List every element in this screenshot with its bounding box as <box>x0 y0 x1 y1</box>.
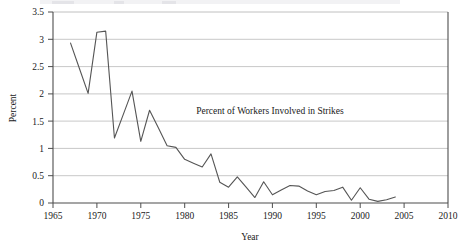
y-tick-label: 2.5 <box>32 62 44 72</box>
y-tick-label: 0.5 <box>32 171 44 181</box>
y-tick-label: 3 <box>39 35 44 45</box>
series-annotation-label: Percent of Workers Involved in Strikes <box>196 106 344 116</box>
chart-container: 3.5 3 2.5 2 1.5 1 0.5 0 Percent 1965 <box>0 0 467 249</box>
gridlines <box>53 12 448 176</box>
y-axis-title: Percent <box>8 93 18 122</box>
x-axis-title: Year <box>241 232 259 242</box>
y-tick-labels: 3.5 3 2.5 2 1.5 1 0.5 0 <box>32 7 44 208</box>
y-tick-label: 2 <box>39 89 44 99</box>
x-tick-label: 1990 <box>263 211 282 221</box>
x-tick-label: 1985 <box>219 211 238 221</box>
y-tick-label: 1 <box>39 144 44 154</box>
x-tick-label: 1995 <box>307 211 326 221</box>
strikes-line-chart: 3.5 3 2.5 2 1.5 1 0.5 0 Percent 1965 <box>0 0 467 249</box>
y-tick-label: 3.5 <box>32 7 44 17</box>
y-tick-label: 0 <box>39 198 44 208</box>
x-tick-label: 2005 <box>395 211 414 221</box>
x-tick-label: 1980 <box>175 211 194 221</box>
x-tick-label: 1975 <box>131 211 150 221</box>
x-tick-marks <box>53 203 448 208</box>
x-tick-labels: 1965 1970 1975 1980 1985 1990 1995 2000 … <box>44 211 458 221</box>
y-tick-label: 1.5 <box>32 117 44 127</box>
y-tick-marks <box>48 12 53 203</box>
x-tick-label: 2000 <box>351 211 370 221</box>
cropped-caption-remnant <box>40 0 400 4</box>
x-tick-label: 1970 <box>87 211 106 221</box>
x-tick-label: 1965 <box>44 211 63 221</box>
x-tick-label: 2010 <box>439 211 458 221</box>
